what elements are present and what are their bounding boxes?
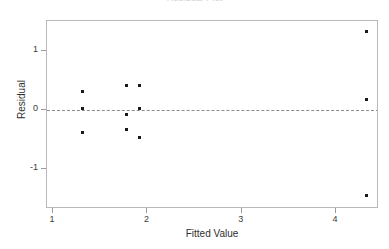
plot-frame: [46, 20, 378, 208]
y-axis-tick: [41, 109, 46, 110]
plot-area: [47, 21, 377, 207]
y-axis-label: Residual: [16, 40, 27, 160]
data-point: [81, 90, 84, 93]
data-point: [81, 131, 84, 134]
data-point: [138, 107, 141, 110]
x-axis-tick-label: 3: [229, 214, 253, 224]
x-axis-tick: [335, 208, 336, 213]
data-point: [125, 128, 128, 131]
data-point: [365, 98, 368, 101]
data-point: [138, 84, 141, 87]
data-point: [365, 30, 368, 33]
x-axis-tick: [146, 208, 147, 213]
x-axis-tick-label: 1: [40, 214, 64, 224]
zero-reference-line: [47, 110, 377, 111]
x-axis-tick-label: 4: [323, 214, 347, 224]
x-axis-tick-label: 2: [134, 214, 158, 224]
x-axis-label: Fitted Value: [46, 228, 378, 239]
x-axis-tick: [52, 208, 53, 213]
x-axis-tick: [241, 208, 242, 213]
y-axis-tick-label: -1: [14, 162, 38, 173]
data-point: [365, 194, 368, 197]
data-point: [81, 107, 84, 110]
data-point: [125, 84, 128, 87]
y-axis-tick: [41, 50, 46, 51]
data-point: [138, 136, 141, 139]
data-point: [125, 113, 128, 116]
y-axis-tick: [41, 168, 46, 169]
residual-plot-figure: Residual Plot 1234 10-1 Fitted Value Res…: [0, 0, 389, 249]
chart-title: Residual Plot: [0, 0, 389, 2]
